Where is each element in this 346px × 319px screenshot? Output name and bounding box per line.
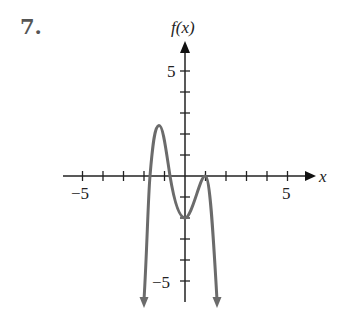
curve-right-arrow-icon	[213, 297, 222, 308]
x-axis-arrow-icon	[305, 171, 316, 181]
y-axis-arrow-icon	[180, 41, 190, 53]
curve-left-arrow-icon	[140, 297, 149, 308]
x-tick-label-5: 5	[282, 184, 291, 203]
x-tick-label-neg5: −5	[71, 184, 89, 203]
y-tick-label-neg5: −5	[152, 273, 170, 292]
y-axis-label: f(x)	[171, 18, 195, 37]
function-graph: −5 5 5 −5 x f(x)	[0, 0, 346, 319]
x-axis-label: x	[318, 167, 327, 186]
y-tick-label-5: 5	[167, 62, 176, 81]
